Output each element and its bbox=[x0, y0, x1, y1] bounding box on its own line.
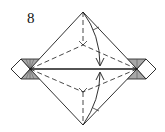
origami-diagram bbox=[0, 0, 165, 132]
